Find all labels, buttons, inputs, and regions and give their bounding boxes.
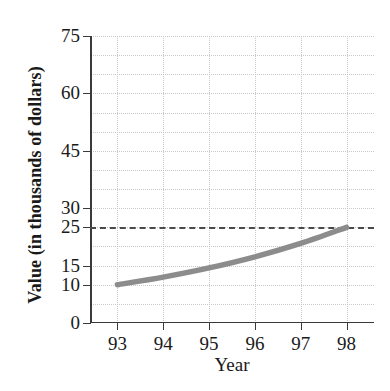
x-tick-label: 95 [187, 333, 231, 355]
y-tick-label: 75 [34, 25, 80, 47]
x-tick-label: 94 [141, 333, 185, 355]
x-tick-mark [163, 322, 164, 330]
x-tick-mark [301, 322, 302, 330]
y-tick-mark [83, 323, 91, 324]
y-tick-label: 45 [34, 140, 80, 162]
x-tick-mark [347, 322, 348, 330]
x-tick-mark [255, 322, 256, 330]
x-tick-label: 97 [279, 333, 323, 355]
chart-figure: Value (in thousands of dollars) 01015253… [0, 0, 390, 391]
y-tick-label: 60 [34, 82, 80, 104]
y-tick-label: 25 [34, 216, 80, 238]
y-tick-label: 30 [34, 197, 80, 219]
plot-area [90, 36, 374, 323]
x-tick-mark [117, 322, 118, 330]
y-axis-title: Value (in thousands of dollars) [22, 20, 48, 350]
y-tick-label: 15 [34, 255, 80, 277]
x-tick-label: 96 [233, 333, 277, 355]
x-tick-label: 98 [325, 333, 369, 355]
x-axis-title: Year [90, 354, 374, 376]
data-curve [90, 36, 374, 323]
y-tick-label: 0 [34, 312, 80, 334]
x-tick-mark [209, 322, 210, 330]
y-tick-label: 10 [34, 274, 80, 296]
x-tick-label: 93 [95, 333, 139, 355]
